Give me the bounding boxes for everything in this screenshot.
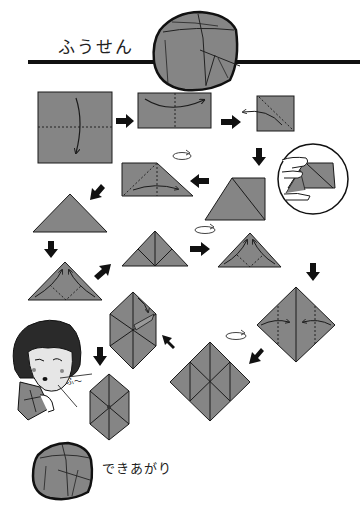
step-5-trapezoid <box>122 163 193 196</box>
step-10-diamond <box>257 287 335 362</box>
arrow-right-icon <box>116 114 134 128</box>
arrow-down-icon <box>44 241 58 258</box>
sound-effect-label: ふ〜 <box>66 375 82 386</box>
arrow-left-icon <box>190 174 209 188</box>
arrow-right-icon <box>221 115 241 129</box>
step-4-squash <box>205 178 265 220</box>
arrow-right-icon <box>190 242 210 256</box>
arrow-down-icon <box>93 347 107 366</box>
step-7-triangle <box>28 262 102 300</box>
origami-diagram: ふうせん ふ〜 できあがり <box>0 0 363 513</box>
turn-over-icon <box>173 150 191 160</box>
arrow-diagonal-icon <box>94 264 111 280</box>
finished-balloon-cube <box>33 443 92 499</box>
step-3-small-square <box>243 96 294 131</box>
step-11-diamond <box>170 342 250 421</box>
arrow-diagonal-icon <box>90 184 105 200</box>
step-1-square <box>38 92 112 163</box>
squash-fold-inset <box>278 144 348 214</box>
balloon-cube-header <box>154 12 240 90</box>
step-13-hexagon <box>90 374 129 440</box>
finished-label: できあがり <box>102 458 172 477</box>
step-8-triangle <box>122 231 188 266</box>
page-title: ふうせん <box>58 33 134 58</box>
arrow-diagonal-icon <box>249 348 264 364</box>
girl-blowing-illustration <box>13 320 92 420</box>
step-2-rectangle <box>138 93 211 128</box>
arrow-down-icon <box>252 148 266 166</box>
diagram-canvas <box>0 0 363 513</box>
step-6-triangle <box>33 194 107 232</box>
step-12-hexagon <box>110 292 156 369</box>
turn-over-icon <box>195 224 215 234</box>
arrow-down-icon <box>306 263 320 281</box>
turn-over-icon <box>226 330 246 340</box>
arrow-diagonal-icon <box>162 335 175 349</box>
step-9-triangle <box>218 233 281 267</box>
